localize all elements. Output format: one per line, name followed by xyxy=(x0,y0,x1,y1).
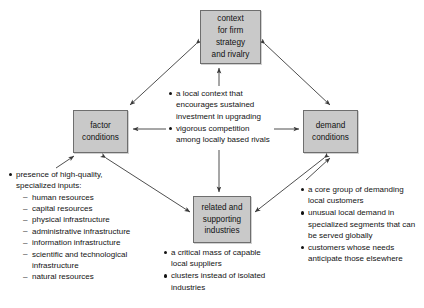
center-notes-block: a local context that encourages sustaine… xyxy=(168,88,272,146)
factor-notes-lead: presence of high-quality, specialized in… xyxy=(16,170,103,190)
node-factor-line1: factor xyxy=(79,120,122,132)
related-notes-block: a critical mass of capable local supplie… xyxy=(163,247,275,293)
list-item: vigorous competition among locally based… xyxy=(168,123,272,146)
list-item: capital resources xyxy=(23,203,140,214)
node-related-and-supporting-industries[interactable]: related and supporting industries xyxy=(193,196,251,243)
demand-notes-list: a core group of demanding local customer… xyxy=(300,184,422,265)
list-item: human resources xyxy=(23,192,140,203)
node-demand-conditions[interactable]: demand conditions xyxy=(303,110,358,153)
arrow-demandnotes-to-box xyxy=(306,158,330,180)
node-related-label: related and supporting industries xyxy=(196,202,249,238)
arrow-context-demand xyxy=(265,44,330,105)
list-item: a core group of demanding local customer… xyxy=(300,184,422,207)
node-context-line2: for firm xyxy=(209,25,253,37)
node-context-label: context for firm strategy and rivalry xyxy=(206,13,256,61)
list-item: a critical mass of capable local supplie… xyxy=(163,247,275,270)
factor-notes-list: presence of high-quality, specialized in… xyxy=(8,169,140,283)
list-item: physical infrastructure xyxy=(23,214,140,225)
node-context-line3: strategy xyxy=(209,37,253,49)
list-item: clusters instead of isolated industries xyxy=(163,270,275,293)
node-demand-line2: conditions xyxy=(309,132,352,144)
factor-inputs-list: human resources capital resources physic… xyxy=(23,192,140,283)
list-item: scientific and technological infrastruct… xyxy=(23,249,140,272)
node-related-line3: industries xyxy=(199,225,246,237)
related-notes-list: a critical mass of capable local supplie… xyxy=(163,247,275,293)
arrow-factornotes-to-box xyxy=(56,156,74,168)
diagram-canvas: context for firm strategy and rivalry fa… xyxy=(0,0,424,308)
list-item: administrative infrastructure xyxy=(23,226,140,237)
node-context-line4: and rivalry xyxy=(209,49,253,61)
node-context-line1: context xyxy=(209,13,253,25)
node-related-line1: related and xyxy=(199,202,246,214)
node-factor-label: factor conditions xyxy=(76,120,125,144)
list-item: a local context that encourages sustaine… xyxy=(168,88,272,122)
demand-notes-block: a core group of demanding local customer… xyxy=(300,184,422,265)
list-item: unusual local demand in specialized segm… xyxy=(300,207,422,241)
node-factor-line2: conditions xyxy=(79,132,122,144)
node-context-for-firm-strategy-and-rivalry[interactable]: context for firm strategy and rivalry xyxy=(200,10,261,64)
list-item: customers whose needs anticipate those e… xyxy=(300,242,422,265)
factor-notes-block: presence of high-quality, specialized in… xyxy=(8,169,140,283)
list-item: natural resources xyxy=(23,271,140,282)
list-item: information infrastructure xyxy=(23,237,140,248)
center-notes-list: a local context that encourages sustaine… xyxy=(168,88,272,145)
node-factor-conditions[interactable]: factor conditions xyxy=(73,110,128,153)
node-demand-line1: demand xyxy=(309,120,352,132)
node-demand-label: demand conditions xyxy=(306,120,355,144)
node-related-line2: supporting xyxy=(199,214,246,226)
list-item: presence of high-quality, specialized in… xyxy=(8,169,140,283)
